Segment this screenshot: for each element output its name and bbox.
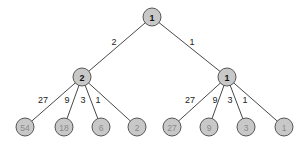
root-node-label: 1	[149, 13, 154, 23]
edge-child-1-to-leaf-3	[227, 77, 284, 127]
edge-label-child-0-leaf-1: 9	[64, 95, 69, 105]
leaf-node-1-1-label: 9	[207, 123, 212, 133]
leaf-node-1-0-label: 27	[167, 123, 177, 133]
internal-node-1-label: 1	[224, 73, 229, 83]
edges-layer	[25, 17, 284, 127]
edge-child-0-to-leaf-3	[82, 77, 137, 127]
leaf-node-1-3: 1	[275, 118, 293, 136]
edge-label-child-1-leaf-3: 1	[242, 95, 247, 105]
leaf-node-0-1-label: 18	[59, 123, 69, 133]
edge-child-1-to-leaf-0	[172, 77, 227, 127]
leaf-node-0-0-label: 54	[20, 123, 30, 133]
leaf-node-0-1: 18	[55, 118, 73, 136]
tree-diagram: 212793127931 12541862127931	[0, 0, 300, 152]
edge-labels-layer: 212793127931	[38, 37, 248, 105]
edge-label-child-0-leaf-0: 27	[38, 95, 48, 105]
leaf-node-1-1: 9	[200, 118, 218, 136]
edge-label-child-1-leaf-1: 9	[212, 95, 217, 105]
edge-label-child-1-leaf-0: 27	[185, 95, 195, 105]
edge-label-root-child-1: 1	[189, 37, 194, 47]
edge-root-to-child-1	[152, 17, 227, 77]
internal-node-0: 2	[73, 68, 91, 86]
leaf-node-1-2: 3	[237, 118, 255, 136]
leaf-node-0-0: 54	[16, 118, 34, 136]
edge-label-child-1-leaf-2: 3	[227, 95, 232, 105]
leaf-node-0-3-label: 2	[135, 123, 140, 133]
edge-label-child-0-leaf-2: 3	[80, 95, 85, 105]
internal-node-1: 1	[218, 68, 236, 86]
internal-node-0-label: 2	[79, 73, 84, 83]
leaf-node-1-2-label: 3	[244, 123, 249, 133]
leaf-node-0-2: 6	[92, 118, 110, 136]
root-node: 1	[143, 8, 161, 26]
edge-root-to-child-0	[82, 17, 152, 77]
edge-label-child-0-leaf-3: 1	[95, 95, 100, 105]
leaf-node-1-0: 27	[163, 118, 181, 136]
nodes-layer: 12541862127931	[16, 8, 293, 136]
leaf-node-0-2-label: 6	[99, 123, 104, 133]
edge-label-root-child-0: 2	[111, 37, 116, 47]
leaf-node-0-3: 2	[128, 118, 146, 136]
leaf-node-1-3-label: 1	[282, 123, 287, 133]
